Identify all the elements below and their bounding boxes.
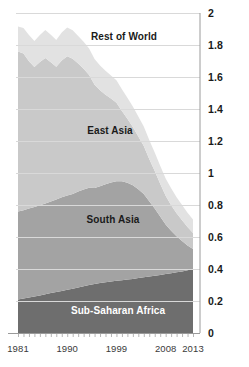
x-tick-label: 2008 [155,344,177,354]
x-tick-label: 1981 [7,344,29,354]
x-tick-label: 1999 [106,344,128,354]
y-tick-label: 0.6 [208,232,223,242]
y-tick-label: 0 [208,328,214,338]
x-tick-label: 1990 [56,344,78,354]
y-tick-label: 1.2 [208,136,223,146]
x-tick-label: 2013 [182,344,204,354]
y-tick-label: 1 [208,168,214,178]
y-tick-label: 0.8 [208,200,223,210]
x-tick-marks-group [19,334,194,337]
stacked-area-chart: 00.20.40.60.811.21.41.61.82 198119901999… [0,0,249,367]
y-tick-label: 2 [208,8,214,18]
y-tick-label: 1.8 [208,40,223,50]
area-series-group [18,27,193,333]
y-tick-label: 1.6 [208,72,223,82]
y-tick-label: 0.2 [208,296,223,306]
series-label-sub-saharan-africa: Sub-Saharan Africa [71,305,165,316]
y-tick-label: 0.4 [208,264,223,274]
series-label-rest-of-world: Rest of World [91,31,157,42]
y-tick-label: 1.4 [208,104,223,114]
series-label-east-asia: East Asia [87,125,133,136]
series-label-south-asia: South Asia [87,214,140,225]
